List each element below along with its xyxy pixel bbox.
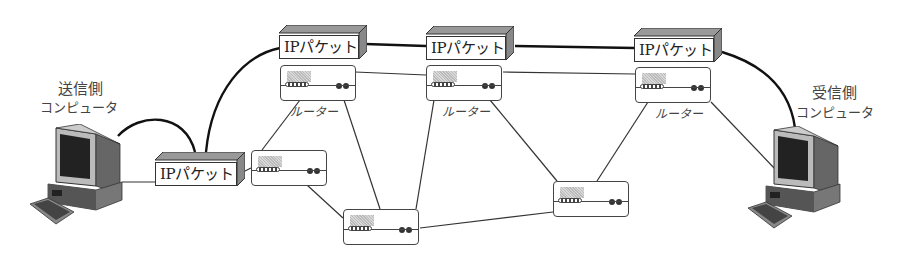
router-led-icon — [608, 190, 622, 209]
ip-packet-2: IPパケット — [426, 34, 514, 60]
router-port-icon — [256, 167, 280, 172]
link-rA-rD — [355, 72, 426, 75]
sender-computer-icon — [26, 124, 126, 228]
path-sender-pkt0 — [118, 120, 195, 152]
ip-packet-label: IPパケット — [279, 35, 359, 59]
sender-label-line2: コンピュータ — [40, 100, 118, 115]
router-display-icon — [642, 73, 666, 84]
router-display-icon — [350, 215, 374, 226]
router-port-icon — [348, 226, 372, 231]
router-led-icon — [335, 74, 349, 93]
router-e — [553, 181, 629, 217]
ip-packet-label: IPパケット — [426, 36, 506, 60]
path-pkt0-pkt1 — [206, 48, 280, 152]
sender-sublabel: コンピュータ — [40, 100, 118, 115]
receiver-label: 受信側 — [812, 84, 857, 102]
router-port-icon — [558, 198, 582, 203]
link-rF-rE — [597, 102, 648, 181]
router-d-label: ルーター — [442, 102, 490, 119]
link-rA-rC — [344, 100, 380, 209]
sender-label: 送信側 — [58, 80, 103, 98]
ip-packet-3: IPパケット — [634, 36, 722, 62]
link-rD-rE — [490, 100, 557, 181]
router-led-icon — [690, 76, 704, 95]
sender-label-line1: 送信側 — [58, 80, 103, 98]
router-b — [251, 150, 327, 186]
router-d — [426, 65, 502, 101]
router-led-icon — [306, 159, 320, 178]
link-rC-rE — [420, 212, 553, 228]
receiver-label-line2: コンピュータ — [796, 105, 874, 120]
path-pkt3-receiver — [722, 52, 795, 128]
ip-packet-0: IPパケット — [155, 160, 245, 186]
router-display-icon — [433, 71, 457, 82]
router-display-icon — [287, 71, 311, 82]
router-port-icon — [640, 84, 664, 89]
path-pkt1-pkt2 — [365, 44, 426, 46]
receiver-sublabel: コンピュータ — [796, 105, 874, 120]
router-display-icon — [560, 187, 584, 198]
router-f-label: ルーター — [655, 104, 703, 121]
ip-packet-label: IPパケット — [634, 38, 714, 62]
router-c — [343, 209, 419, 245]
router-port-icon — [431, 82, 455, 87]
ip-packet-label: IPパケット — [155, 162, 237, 186]
router-a-label: ルーター — [290, 102, 338, 119]
link-rB-rC — [307, 185, 343, 218]
receiver-label-line1: 受信側 — [812, 84, 857, 102]
ip-packet-1: IPパケット — [279, 33, 367, 59]
router-led-icon — [398, 218, 412, 237]
receiver-computer-icon — [744, 126, 844, 232]
router-f — [635, 67, 711, 103]
router-port-icon — [285, 82, 309, 87]
router-led-icon — [481, 74, 495, 93]
link-rD-rC — [416, 100, 434, 209]
router-display-icon — [258, 156, 282, 167]
link-rD-rF — [503, 72, 635, 74]
path-pkt2-pkt3 — [515, 46, 635, 48]
router-a — [280, 65, 356, 101]
